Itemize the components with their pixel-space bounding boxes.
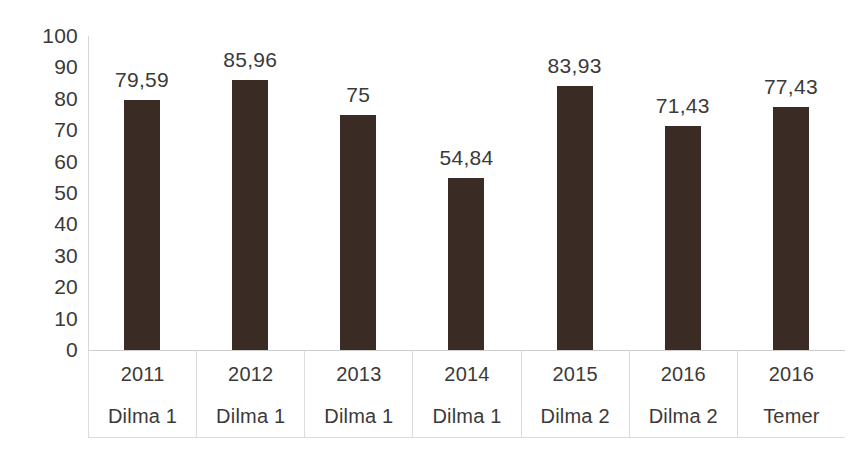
y-axis-tick-label: 30 xyxy=(16,245,78,266)
bar xyxy=(665,126,701,350)
bar-group: 77,43 xyxy=(737,36,845,350)
category-year-label: 2016 xyxy=(769,364,814,384)
y-axis-tick-label: 90 xyxy=(16,56,78,77)
category-group-label: Dilma 1 xyxy=(216,406,285,426)
bar-group: 83,93 xyxy=(521,36,629,350)
category-cell: 2014Dilma 1 xyxy=(412,350,520,438)
y-axis-tick-label: 0 xyxy=(16,339,78,360)
category-axis-table: 2011Dilma 12012Dilma 12013Dilma 12014Dil… xyxy=(88,350,845,438)
bar-value-label: 83,93 xyxy=(548,55,602,76)
bar-value-label: 71,43 xyxy=(656,95,710,116)
y-axis-tick-label: 50 xyxy=(16,182,78,203)
y-axis-tick-label: 100 xyxy=(16,25,78,46)
category-year-label: 2014 xyxy=(444,364,489,384)
bar-group: 85,96 xyxy=(196,36,304,350)
bar-group: 54,84 xyxy=(412,36,520,350)
bar xyxy=(124,100,160,350)
bar xyxy=(448,178,484,350)
bar xyxy=(340,115,376,351)
y-axis-tick-label: 60 xyxy=(16,151,78,172)
category-group-label: Dilma 2 xyxy=(649,406,718,426)
category-year-label: 2013 xyxy=(336,364,381,384)
y-axis-tick-label: 80 xyxy=(16,88,78,109)
category-year-label: 2011 xyxy=(121,364,165,384)
category-cell: 2016Temer xyxy=(737,350,845,438)
category-table-bottom-border xyxy=(88,437,845,438)
y-axis-tick-label: 40 xyxy=(16,213,78,234)
plot-area: 79,5985,967554,8483,9371,4377,43 xyxy=(88,36,845,350)
bar-group: 71,43 xyxy=(629,36,737,350)
y-axis-tick-label: 10 xyxy=(16,308,78,329)
bar xyxy=(232,80,268,350)
category-year-label: 2015 xyxy=(552,364,597,384)
category-group-label: Dilma 2 xyxy=(541,406,610,426)
category-cell: 2012Dilma 1 xyxy=(196,350,304,438)
bar-value-label: 79,59 xyxy=(115,69,169,90)
category-cell: 2015Dilma 2 xyxy=(521,350,629,438)
y-axis-tick-label: 20 xyxy=(16,276,78,297)
category-group-label: Dilma 1 xyxy=(432,406,501,426)
bar-group: 79,59 xyxy=(88,36,196,350)
bar-chart: 1009080706050403020100 79,5985,967554,84… xyxy=(0,0,861,449)
bar-value-label: 54,84 xyxy=(439,147,493,168)
category-cell: 2016Dilma 2 xyxy=(629,350,737,438)
category-group-label: Dilma 1 xyxy=(108,406,177,426)
bar xyxy=(773,107,809,350)
bar-value-label: 77,43 xyxy=(764,76,818,97)
category-year-label: 2012 xyxy=(228,364,273,384)
category-year-label: 2016 xyxy=(661,364,706,384)
bar-group: 75 xyxy=(304,36,412,350)
category-group-label: Temer xyxy=(763,406,820,426)
bar-value-label: 85,96 xyxy=(223,49,277,70)
y-axis-tick-label: 70 xyxy=(16,119,78,140)
category-cell: 2011Dilma 1 xyxy=(88,350,196,438)
bar xyxy=(557,86,593,350)
bar-value-label: 75 xyxy=(346,84,370,105)
category-group-label: Dilma 1 xyxy=(324,406,393,426)
category-cell: 2013Dilma 1 xyxy=(304,350,412,438)
